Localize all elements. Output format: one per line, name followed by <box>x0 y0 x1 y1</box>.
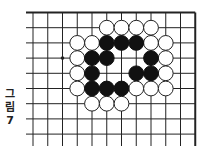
black-stone <box>99 81 114 96</box>
white-stone <box>114 20 129 35</box>
caption-char-2: 림 <box>2 101 18 114</box>
white-stone <box>158 51 173 66</box>
black-stone <box>114 36 129 51</box>
white-stone <box>70 36 85 51</box>
black-stone <box>99 51 114 66</box>
white-stone <box>70 81 85 96</box>
white-stone <box>158 66 173 81</box>
black-stone <box>144 66 159 81</box>
white-stone <box>144 36 159 51</box>
white-stone <box>144 81 159 96</box>
star-point-dot <box>61 56 65 60</box>
white-stone <box>144 20 159 35</box>
black-stone <box>99 36 114 51</box>
white-stone <box>85 96 100 111</box>
caption-char-1: 그 <box>2 88 18 101</box>
white-stone <box>129 20 144 35</box>
white-stone <box>129 81 144 96</box>
white-stone <box>114 96 129 111</box>
white-stone <box>99 96 114 111</box>
black-stone <box>144 51 159 66</box>
white-stone <box>158 81 173 96</box>
white-stone <box>70 51 85 66</box>
white-stone <box>99 20 114 35</box>
go-board-diagram <box>0 0 209 158</box>
black-stone <box>85 66 100 81</box>
white-stone <box>85 36 100 51</box>
black-stone <box>129 66 144 81</box>
white-stone <box>158 36 173 51</box>
board-marks <box>61 56 65 60</box>
figure-caption: 그 림 7 <box>2 88 18 127</box>
caption-number: 7 <box>2 114 18 127</box>
black-stone <box>129 36 144 51</box>
black-stone <box>85 81 100 96</box>
black-stone <box>85 51 100 66</box>
white-stone <box>70 66 85 81</box>
black-stone <box>114 81 129 96</box>
